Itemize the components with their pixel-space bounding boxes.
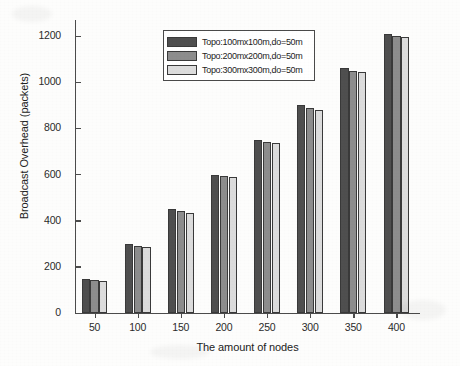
bar-150-series-2 [186,213,194,313]
x-axis-title: The amount of nodes [75,341,420,353]
y-tick-label: 800 [44,121,61,133]
y-tick-label: 400 [44,214,61,226]
legend-item: Topo:200mx200m,do=50m [167,49,310,62]
x-tick-mark [224,313,225,318]
x-tick-label: 400 [376,321,416,333]
bar-300-series-1 [306,108,314,313]
legend-item: Topo:100mx100m,do=50m [167,35,310,48]
y-tick-label-wrap: 1000 [0,75,68,87]
bar-50-series-0 [82,279,90,313]
legend-swatch-icon [167,65,197,75]
legend-swatch-icon [167,51,197,61]
bar-200-series-0 [211,175,219,313]
x-tick-mark [95,313,96,318]
x-tick-mark [138,313,139,318]
bar-400-series-0 [384,34,392,313]
bar-400-series-2 [401,37,409,313]
scan-smudge [12,6,52,22]
y-tick-label-wrap: 600 [0,168,68,180]
y-tick-label-wrap: 1200 [0,29,68,41]
x-tick-label: 100 [118,321,158,333]
x-tick-mark [267,313,268,318]
bar-250-series-1 [263,142,271,313]
x-tick-mark [353,313,354,318]
x-tick-label: 50 [75,321,115,333]
legend-swatch-icon [167,37,197,47]
x-tick-label: 200 [204,321,244,333]
bar-150-series-0 [168,209,176,313]
x-tick-label: 250 [247,321,287,333]
bar-100-series-1 [134,246,142,313]
legend-box: Topo:100mx100m,do=50m Topo:200mx200m,do=… [163,30,315,81]
bar-150-series-1 [177,211,185,313]
x-axis-line [75,313,420,314]
y-tick-label-wrap: 800 [0,121,68,133]
bar-400-series-1 [392,36,400,313]
bar-350-series-0 [340,68,348,313]
x-tick-label: 350 [333,321,373,333]
y-tick-label: 0 [55,306,61,318]
legend-item: Topo:300mx300m,do=50m [167,63,310,76]
bar-100-series-0 [125,244,133,313]
bar-350-series-2 [358,72,366,313]
x-tick-mark [396,313,397,318]
legend-label: Topo:100mx100m,do=50m [202,37,303,47]
bar-50-series-2 [99,281,107,313]
legend-label: Topo:200mx200m,do=50m [202,51,303,61]
y-tick-label-wrap: 0 [0,306,68,318]
legend-label: Topo:300mx300m,do=50m [202,65,303,75]
y-tick-label: 200 [44,260,61,272]
y-tick-label: 1200 [38,29,61,41]
y-tick-label-wrap: 400 [0,214,68,226]
bar-200-series-1 [220,176,228,313]
bar-100-series-2 [142,247,150,313]
bar-50-series-1 [90,280,98,313]
x-tick-label: 300 [290,321,330,333]
y-tick-label: 600 [44,168,61,180]
bar-chart-figure: Broadcast Overhead (packets) The amount … [0,0,460,366]
bar-350-series-1 [349,71,357,313]
x-tick-mark [310,313,311,318]
bar-250-series-2 [272,143,280,313]
y-tick-label: 1000 [38,75,61,87]
bar-250-series-0 [254,140,262,313]
y-tick-label-wrap: 200 [0,260,68,272]
x-tick-label: 150 [161,321,201,333]
bar-200-series-2 [229,177,237,313]
x-tick-mark [181,313,182,318]
bar-300-series-0 [297,105,305,313]
bar-300-series-2 [315,110,323,313]
